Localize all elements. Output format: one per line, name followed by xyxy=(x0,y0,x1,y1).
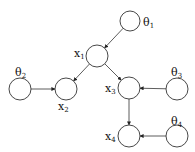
node-x3: x3 xyxy=(105,77,140,99)
node-theta3: θ3 xyxy=(166,66,188,100)
edge-theta3-to-x3 xyxy=(140,88,166,89)
nodes: θ1x1θ2x2x3θ3x4θ4 xyxy=(9,11,188,147)
node-x2: x2 xyxy=(55,78,77,114)
node-label-x3: x3 xyxy=(105,82,116,96)
node-theta1: θ1 xyxy=(120,11,154,31)
edge-x1-to-x2 xyxy=(74,64,90,81)
node-circle xyxy=(166,78,188,100)
node-circle xyxy=(118,77,140,99)
node-x4: x4 xyxy=(105,125,140,147)
node-circle xyxy=(118,125,140,147)
node-label-x4: x4 xyxy=(105,130,116,144)
edge-theta1-to-x1 xyxy=(105,28,124,48)
node-circle xyxy=(55,78,77,100)
node-label-x2: x2 xyxy=(58,100,69,114)
node-label-theta4: θ4 xyxy=(171,115,183,129)
node-theta2: θ2 xyxy=(9,66,31,100)
node-circle xyxy=(86,45,108,67)
edges xyxy=(31,28,166,136)
bayesian-network-diagram: θ1x1θ2x2x3θ3x4θ4 xyxy=(0,0,195,152)
node-label-theta1: θ1 xyxy=(143,16,154,30)
edge-x1-to-x3 xyxy=(105,64,121,80)
node-label-x1: x1 xyxy=(74,47,85,61)
node-theta4: θ4 xyxy=(166,115,188,147)
node-label-theta2: θ2 xyxy=(15,66,26,80)
node-circle xyxy=(120,11,140,31)
node-x1: x1 xyxy=(74,45,108,67)
node-circle xyxy=(9,78,31,100)
node-label-theta3: θ3 xyxy=(171,66,182,80)
